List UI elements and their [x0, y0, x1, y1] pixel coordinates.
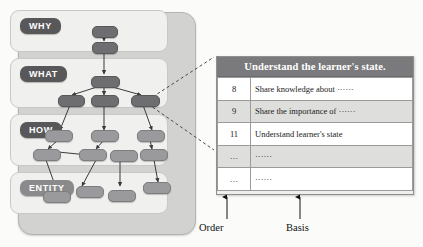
figure-canvas: WHY WHAT HOW ENTITY Understand the learn… — [0, 0, 423, 247]
annotation-arrows — [0, 0, 423, 247]
order-column-label: Order — [199, 222, 224, 233]
basis-column-label: Basis — [286, 222, 309, 233]
